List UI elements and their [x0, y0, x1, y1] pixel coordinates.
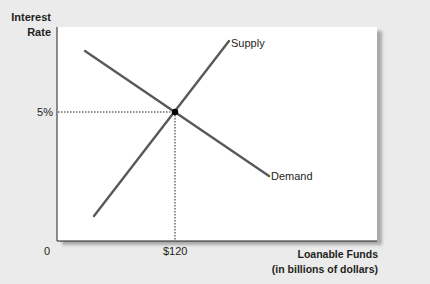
- y-tick-5-percent: 5%: [37, 106, 53, 118]
- x-tick-120: $120: [163, 245, 187, 257]
- y-axis-label: Interest Rate: [11, 10, 51, 40]
- supply-curve: [94, 41, 229, 216]
- equilibrium-point: [172, 109, 178, 115]
- x-axis-label-line1: Loanable Funds: [272, 247, 378, 262]
- chart-svg: [0, 0, 430, 284]
- x-axis-label: Loanable Funds (in billions of dollars): [272, 247, 378, 277]
- demand-label: Demand: [271, 170, 313, 182]
- y-axis-label-line1: Interest: [11, 10, 51, 25]
- origin-label: 0: [44, 245, 50, 257]
- x-axis-label-line2: (in billions of dollars): [272, 262, 378, 277]
- y-axis-label-line2: Rate: [11, 25, 51, 40]
- supply-label: Supply: [231, 37, 265, 49]
